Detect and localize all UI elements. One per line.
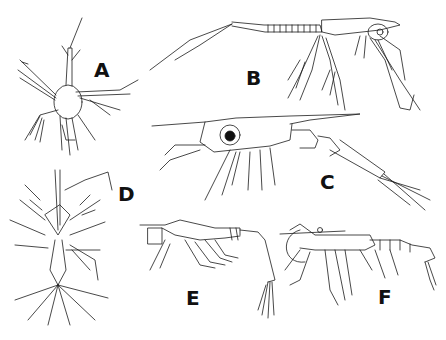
specimen-b-drawing [150, 18, 420, 110]
figure-canvas: A B C D E F [0, 0, 446, 340]
panel-label-a: A [94, 60, 109, 80]
panel-label-c: C [320, 172, 335, 192]
panel-label-f: F [378, 287, 392, 307]
specimen-d-drawing [10, 170, 112, 325]
panel-label-e: E [186, 288, 200, 308]
specimen-f-drawing [280, 224, 436, 305]
panel-label-d: D [118, 184, 135, 204]
panel-label-b: B [246, 68, 261, 88]
specimen-e-drawing [140, 220, 275, 318]
specimen-c-drawing [152, 114, 430, 210]
specimen-a-drawing [18, 18, 138, 155]
